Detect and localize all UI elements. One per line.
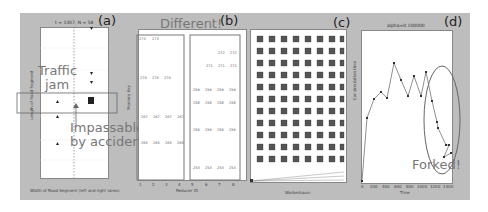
x-tick: 600 [394,184,402,189]
panel-d-title: alpha=0.100000 [387,23,425,28]
forked-label: Forked! [412,158,461,171]
x-tick: 1400 [443,184,453,189]
x-tick: 0 [361,184,364,189]
x-tick: 1000 [417,184,427,189]
panel-d-ylabel: Car simulation time [352,61,357,100]
x-tick: 1200 [430,184,440,189]
x-tick: 800 [406,184,414,189]
x-tick: 400 [382,184,390,189]
panel-d-letter: (d) [444,14,462,29]
x-tick: 200 [370,184,378,189]
panel-d-line-chart [0,0,488,212]
panel-d-xlabel: Time [400,190,410,195]
